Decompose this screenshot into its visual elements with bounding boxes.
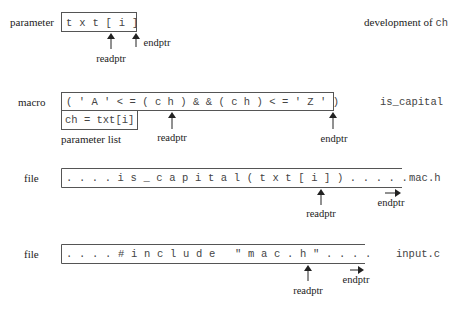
file-name-input-c: input.c bbox=[396, 249, 440, 260]
parameter-list-content: ch = txt[i] bbox=[65, 115, 134, 126]
endptr-label: endptr bbox=[343, 275, 370, 286]
readptr-label: readptr bbox=[293, 286, 323, 297]
file-name-mac-h: mac.h bbox=[409, 173, 441, 184]
endptr-label: endptr bbox=[321, 134, 348, 145]
readptr-label: readptr bbox=[306, 209, 336, 220]
mac-h-content: . . . . i s _ c a p i t a l ( t x t [ i … bbox=[66, 173, 408, 184]
input-c-content: . . . . # i n c l u d e " m a c . h " . … bbox=[66, 249, 372, 260]
development-of-code: ch bbox=[435, 17, 448, 29]
row-kind-label: macro bbox=[18, 97, 45, 108]
row-kind-label: file bbox=[24, 249, 39, 260]
development-of-label: development of ch bbox=[364, 17, 448, 29]
diagram-lines bbox=[0, 0, 454, 310]
endptr-label: endptr bbox=[144, 38, 171, 49]
development-of-text: development of bbox=[364, 16, 435, 28]
row-kind-label: parameter bbox=[10, 17, 54, 28]
readptr-label: readptr bbox=[96, 54, 126, 65]
parameter-content: t x t [ i ] bbox=[66, 18, 139, 29]
row-kind-label: file bbox=[24, 173, 39, 184]
macro-name: is_capital bbox=[380, 97, 443, 108]
endptr-label: endptr bbox=[378, 198, 405, 209]
macro-content: ( ' A ' < = ( c h ) & & ( c h ) < = ' Z … bbox=[66, 97, 339, 108]
macro-expansion-diagram: parameter t x t [ i ] development of ch … bbox=[0, 0, 454, 310]
parameter-list-caption: parameter list bbox=[61, 134, 121, 145]
readptr-label: readptr bbox=[157, 133, 187, 144]
